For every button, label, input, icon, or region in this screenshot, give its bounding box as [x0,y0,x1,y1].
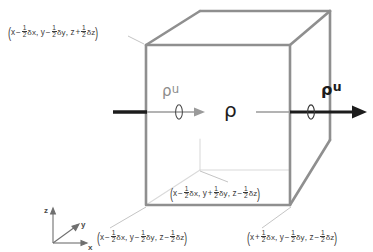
axis-y-arrowhead [72,224,79,231]
cube-front-face-edges [146,45,290,205]
half-fraction: 12 [243,186,248,200]
cube-top-left-slant [146,11,200,45]
leader-bottom-center [200,171,228,182]
inflow-flux-label: ρu [162,84,179,99]
x-sign: − [105,233,110,242]
half-fraction: 12 [214,186,219,200]
z-sign: − [314,233,319,242]
x-delta: δx [266,233,275,242]
half-fraction: 12 [141,230,146,244]
x-var: x [100,233,104,242]
axis-x-arrowhead [81,241,87,246]
y-sign: − [46,28,51,37]
y-var: y [130,233,134,242]
y-var: y [280,233,284,242]
leader-bottom-left [110,207,146,228]
leader-bottom-right [262,207,291,228]
corner-label-bottom-right: (x + 12δx, y − 12δy, z − 12δz) [247,230,337,244]
half-fraction: 12 [184,186,189,200]
half-fraction: 12 [81,25,86,39]
x-delta: δx [189,189,198,198]
half-fraction: 12 [291,230,296,244]
z-sign: − [164,233,169,242]
y-sign: − [285,233,290,242]
z-var: z [309,233,313,242]
z-var: z [159,233,163,242]
cube-visible-edges [146,11,330,205]
z-sign: − [237,189,242,198]
x-var: x [173,189,177,198]
x-var: x [250,233,254,242]
outflow-arrow-black [290,106,367,119]
z-sign: + [75,28,80,37]
axis-label-x: x [88,244,92,252]
y-delta: δy [219,189,228,198]
y-sign: − [135,233,140,242]
density-symbol-center: ρ [224,100,237,120]
u-glyph: u [172,82,179,96]
y-var: y [203,189,207,198]
axis-label-y: y [81,221,85,229]
rho-glyph: ρ [162,82,172,100]
x-delta: δx [116,233,125,242]
half-fraction: 12 [22,25,27,39]
half-fraction: 12 [111,230,116,244]
x-sign: + [255,233,260,242]
half-fraction: 12 [170,230,175,244]
leader-top-left [128,36,144,44]
z-var: z [70,28,74,37]
outflow-flux-label: ρu [321,82,341,98]
axis-y-line [53,227,75,243]
z-var: z [232,189,236,198]
u-glyph: u [333,79,342,94]
x-delta: δx [27,28,36,37]
corner-label-bottom-left: (x − 12δx, y − 12δy, z − 12δz) [97,230,187,244]
x-sign: − [178,189,183,198]
axis-z-arrowhead [51,208,56,214]
corner-label-top-left: (x − 12δx, y − 12δy, z + 12δz) [8,25,98,39]
cube-top-right-slant [290,11,330,45]
y-sign: + [208,189,213,198]
half-fraction: 12 [52,25,57,39]
x-var: x [11,28,15,37]
rho-glyph: ρ [321,80,332,99]
axis-label-z: z [44,207,48,215]
y-delta: δy [57,28,66,37]
rho-glyph: ρ [224,98,237,122]
cube-bottom-right-slant [290,140,330,205]
half-fraction: 12 [320,230,325,244]
y-delta: δy [296,233,305,242]
half-fraction: 12 [261,230,266,244]
y-var: y [41,28,45,37]
x-sign: − [16,28,21,37]
y-delta: δy [146,233,155,242]
corner-label-bottom-center: (x − 12δx, y + 12δy, z − 12δz) [170,186,260,200]
